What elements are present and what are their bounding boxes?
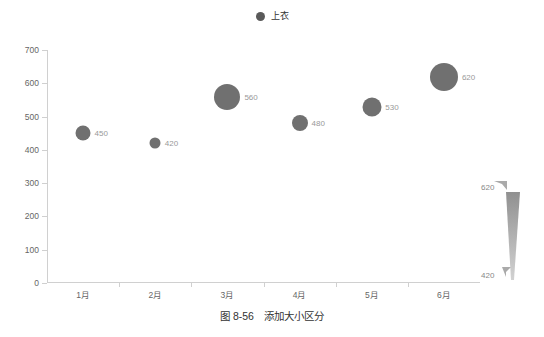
x-axis-label: 2月 (148, 288, 162, 300)
visual-map-max-label: 620 (481, 183, 494, 192)
figure-caption: 图 8-56 添加大小区分 (0, 308, 544, 323)
x-axis-label: 4月 (293, 288, 307, 300)
y-axis-label: 300 (25, 178, 39, 188)
x-axis-tick (408, 283, 409, 287)
x-axis-tick (264, 283, 265, 287)
x-axis-label: 5月 (365, 288, 379, 300)
scatter-point-label: 420 (165, 139, 178, 148)
scatter-point-label: 450 (95, 129, 108, 138)
scatter-point-label: 620 (462, 72, 475, 81)
visual-map-min-label: 420 (481, 271, 494, 280)
y-axis-label: 600 (25, 78, 39, 88)
x-axis-tick (191, 283, 192, 287)
y-axis-tick (42, 150, 47, 151)
y-axis-label: 700 (25, 45, 39, 55)
y-axis-tick (42, 83, 47, 84)
y-axis-label: 500 (25, 112, 39, 122)
plot-area: 0100200300400500600700 1月2月3月4月5月6月 4504… (47, 50, 480, 283)
scatter-point-label: 560 (244, 92, 257, 101)
y-axis-label: 0 (34, 278, 39, 288)
x-axis-label: 3月 (221, 288, 235, 300)
visual-map-control[interactable]: 620 420 (481, 180, 539, 290)
scatter-point-label: 530 (385, 102, 398, 111)
scatter-point[interactable] (430, 63, 458, 91)
scatter-point[interactable] (362, 97, 381, 116)
x-axis-tick (336, 283, 337, 287)
y-axis-tick (42, 283, 47, 284)
x-axis-label: 1月 (76, 288, 90, 300)
figure-container: 上衣 0100200300400500600700 1月2月3月4月5月6月 4… (0, 0, 544, 337)
y-axis-tick (42, 183, 47, 184)
y-axis-tick (42, 250, 47, 251)
scatter-point-label: 480 (312, 119, 325, 128)
scatter-point[interactable] (150, 138, 161, 149)
y-axis-line (47, 50, 48, 283)
scatter-point[interactable] (214, 84, 240, 110)
x-axis-label: 6月 (437, 288, 451, 300)
y-axis-tick (42, 50, 47, 51)
legend-item-label[interactable]: 上衣 (271, 12, 289, 21)
scatter-point[interactable] (292, 115, 308, 131)
filled-circle-icon (256, 12, 265, 21)
visual-map-min-handle-icon[interactable] (502, 266, 516, 278)
chart-legend: 上衣 (0, 12, 544, 21)
y-axis-label: 400 (25, 145, 39, 155)
scatter-point[interactable] (76, 126, 91, 141)
y-axis-label: 200 (25, 211, 39, 221)
y-axis-label: 100 (25, 245, 39, 255)
x-axis-tick (119, 283, 120, 287)
visual-map-max-handle-icon[interactable] (494, 180, 510, 192)
y-axis-tick (42, 117, 47, 118)
y-axis-tick (42, 216, 47, 217)
